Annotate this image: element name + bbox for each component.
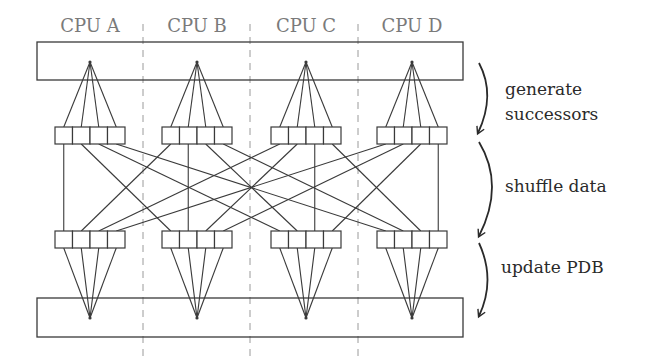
outgoing-buffer-cell [289, 127, 307, 144]
outgoing-buffer-cell [90, 127, 108, 144]
incoming-buffer-cell [412, 231, 430, 248]
outgoing-buffer-cell [215, 127, 233, 144]
incoming-buffer-cell [162, 231, 180, 248]
outgoing-buffer-cell [197, 127, 215, 144]
outgoing-buffer-cell [395, 127, 413, 144]
phase-label-update: update PDB [501, 257, 604, 277]
top-apex [304, 60, 307, 63]
outgoing-buffer-cell [430, 127, 448, 144]
outgoing-buffer-cell [377, 127, 395, 144]
bottom-apex [410, 316, 413, 319]
outgoing-buffer-cell [55, 127, 73, 144]
cpu-label-d: CPU D [382, 15, 443, 36]
incoming-buffer-cell [108, 231, 126, 248]
outgoing-buffer-cell [412, 127, 430, 144]
incoming-buffer-cell [377, 231, 395, 248]
phase-arrow-update [479, 243, 488, 316]
incoming-buffer-cell [395, 231, 413, 248]
outgoing-buffer-cell [306, 127, 324, 144]
incoming-buffer-cell [306, 231, 324, 248]
incoming-buffer-cell [289, 231, 307, 248]
incoming-buffer-cell [55, 231, 73, 248]
phase-label-generate-line1: generate [505, 79, 582, 99]
bottom-apex [304, 316, 307, 319]
incoming-buffer-cell [90, 231, 108, 248]
outgoing-buffer-cell [73, 127, 91, 144]
cpu-dividers [143, 24, 358, 361]
top-apex [195, 60, 198, 63]
top-apex [410, 60, 413, 63]
state-store-top [37, 42, 463, 80]
outgoing-buffer-cell [108, 127, 126, 144]
cpu-label-c: CPU C [276, 15, 336, 36]
top-apex [88, 60, 91, 63]
incoming-buffer-cell [73, 231, 91, 248]
incoming-buffer-cell [197, 231, 215, 248]
phase-arrow-generate [478, 63, 487, 133]
incoming-buffer-cell [215, 231, 233, 248]
outgoing-buffer-cell [271, 127, 289, 144]
incoming-buffer-cell [180, 231, 198, 248]
phase-label-generate-line2: successors [505, 104, 598, 124]
outgoing-buffer-cell [180, 127, 198, 144]
phase-label-shuffle: shuffle data [505, 176, 607, 196]
incoming-buffer-cell [324, 231, 342, 248]
phase-arrow-shuffle [479, 142, 492, 236]
outgoing-buffer-cell [162, 127, 180, 144]
incoming-buffer-cell [430, 231, 448, 248]
bottom-apex [88, 316, 91, 319]
cpu-label-a: CPU A [60, 15, 120, 36]
outgoing-buffer-cell [324, 127, 342, 144]
bottom-apex [195, 316, 198, 319]
incoming-buffer-cell [271, 231, 289, 248]
cpu-label-b: CPU B [167, 15, 227, 36]
parallel-pipeline-diagram: CPU A CPU B CPU C CPU D generate success… [0, 0, 666, 361]
